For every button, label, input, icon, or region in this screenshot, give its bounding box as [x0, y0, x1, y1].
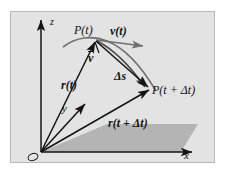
- axis-label-y: y: [62, 103, 67, 114]
- label-position-rt-dt: r(t + Δt): [108, 117, 148, 129]
- vector-diagram-figure: z x y O P(t) v(t) v Δs r(t) P(t + Δt) r(…: [0, 0, 237, 179]
- label-point-t-dt: P(t + Δt): [152, 84, 195, 96]
- label-point-t: P(t): [74, 24, 93, 36]
- label-position-rt: r(t): [61, 79, 77, 91]
- average-velocity-symbol: v: [88, 52, 93, 64]
- label-velocity: v(t): [110, 25, 127, 37]
- axis-label-x: x: [184, 150, 189, 161]
- label-average-velocity: v: [88, 52, 93, 64]
- axis-label-z: z: [50, 17, 54, 27]
- label-arc-length: Δs: [114, 70, 126, 82]
